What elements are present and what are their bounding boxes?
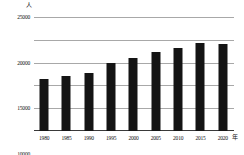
bar (107, 63, 116, 131)
bar-group: 1995 (100, 17, 122, 131)
bar (129, 58, 138, 131)
x-axis-tick-label: 1985 (61, 135, 71, 141)
bar (40, 79, 49, 131)
x-axis-tick-label: 1995 (106, 135, 116, 141)
x-axis-tick-label: 2010 (173, 135, 183, 141)
bar (218, 44, 227, 131)
bar-group: 2000 (122, 17, 144, 131)
y-axis-tick-label: 25000 (17, 14, 30, 20)
bar-group: 2020 (212, 17, 234, 131)
x-axis-tick-label: 1990 (84, 135, 94, 141)
bar (174, 48, 183, 131)
bar (62, 76, 71, 131)
y-axis-tick-label: 10000 (17, 151, 30, 155)
x-axis-unit-label: 年 (232, 134, 238, 141)
y-axis-unit-label: 人 (26, 2, 32, 9)
plot-area: 0500010000150002000025000 19801985199019… (33, 17, 234, 131)
bar-series: 198019851990199520002005201020152020 (33, 17, 234, 131)
x-axis-tick-label: 2020 (218, 135, 228, 141)
bar (84, 73, 93, 131)
x-axis-tick-label: 2000 (128, 135, 138, 141)
bar (151, 52, 160, 131)
y-axis-tick-label: 20000 (17, 60, 30, 66)
x-axis-tick-label: 2005 (151, 135, 161, 141)
bar-group: 2015 (189, 17, 211, 131)
bar-group: 1990 (78, 17, 100, 131)
bar-group: 2010 (167, 17, 189, 131)
x-axis-tick-label: 2015 (195, 135, 205, 141)
bar (196, 43, 205, 131)
bar-group: 1985 (55, 17, 77, 131)
bar-chart: 人 年 0500010000150002000025000 1980198519… (0, 0, 244, 155)
bar-group: 2005 (145, 17, 167, 131)
bar-group: 1980 (33, 17, 55, 131)
y-axis-spine (33, 17, 34, 131)
x-axis-tick-label: 1980 (39, 135, 49, 141)
y-axis-tick-label: 15000 (17, 105, 30, 111)
